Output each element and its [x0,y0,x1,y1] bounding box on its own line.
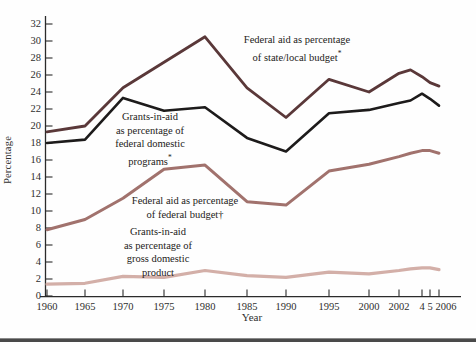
y-tick-label: 26 [13,68,41,82]
y-tick-label: 30 [13,34,41,48]
series-label-grants-in-aid-gross-domestic-product: Grants-in-aidas percentage ofgross domes… [124,225,192,279]
x-tick-label: 1970 [106,300,140,313]
x-tick-label: 1960 [30,300,64,313]
x-tick-label: 2006 [429,300,463,313]
x-tick-label: 1980 [188,300,222,313]
series-label-grants-in-aid-federal-domestic-programs: Grants-in-aidas percentage offederal dom… [115,110,185,168]
x-tick-label: 2000 [352,300,386,313]
y-tick-label: 24 [13,85,41,99]
y-tick-label: 4 [13,255,41,269]
y-tick-label: 12 [13,187,41,201]
bottom-rule [0,338,476,342]
x-axis-title: Year [222,311,282,323]
x-tick-label: 1965 [68,300,102,313]
y-tick-label: 28 [13,51,41,65]
series-line-federal-aid-federal-budget [47,151,439,230]
y-tick-label: 14 [13,170,41,184]
y-tick-label: 16 [13,153,41,167]
chart-figure: Percentage 02468101214161820222426283032… [0,0,476,344]
y-tick-label: 6 [13,238,41,252]
series-line-grants-in-aid-gross-domestic-product [47,268,439,284]
y-tick-label: 18 [13,136,41,150]
y-tick-label: 2 [13,272,41,286]
series-line-grants-in-aid-federal-domestic-programs [47,94,439,152]
series-label-federal-aid-state-local-budget: Federal aid as percentageof state/local … [244,33,350,64]
y-tick-label: 20 [13,119,41,133]
y-tick-label: 32 [13,17,41,31]
plot-area [0,0,476,344]
x-tick-label: 1995 [312,300,346,313]
series-label-federal-aid-federal-budget: Federal aid as percentageof federal budg… [132,194,238,221]
y-tick-label: 10 [13,204,41,218]
y-tick-label: 8 [13,221,41,235]
x-tick-label: 1975 [147,300,181,313]
y-tick-label: 22 [13,102,41,116]
